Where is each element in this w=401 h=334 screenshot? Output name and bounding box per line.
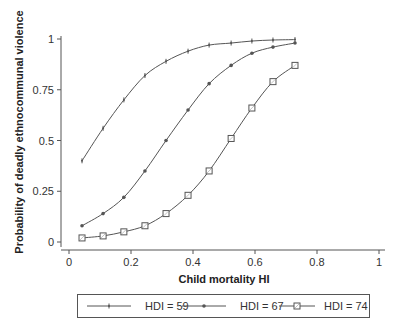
- chart-canvas: 00.250.50.751 00.20.40.60.81 Probability…: [0, 0, 401, 334]
- x-axis: 00.20.40.60.81: [61, 250, 385, 268]
- data-point: [185, 192, 191, 198]
- data-point: [272, 38, 274, 43]
- data-point: [142, 223, 148, 229]
- data-point: [271, 45, 275, 49]
- data-point: [80, 224, 84, 228]
- x-tick-label: 1: [376, 256, 382, 268]
- data-point: [100, 233, 106, 239]
- data-point: [230, 41, 232, 46]
- data-point: [186, 108, 190, 112]
- x-axis-title: Child mortality HI: [178, 273, 269, 285]
- y-tick-label: 1: [48, 33, 54, 45]
- y-axis: 00.250.50.751: [33, 33, 61, 248]
- data-point: [249, 105, 255, 111]
- x-tick-label: 0.8: [309, 256, 324, 268]
- data-point: [163, 211, 169, 217]
- y-tick-label: 0: [48, 236, 54, 248]
- data-point: [228, 135, 234, 141]
- chart: 00.250.50.751 00.20.40.60.81 Probability…: [0, 0, 401, 334]
- data-point: [165, 59, 167, 64]
- data-point: [270, 79, 276, 85]
- y-tick-label: 0.75: [33, 84, 54, 96]
- data-point: [101, 212, 105, 216]
- data-point: [207, 82, 211, 86]
- x-tick-label: 0.4: [185, 256, 200, 268]
- x-tick-label: 0: [66, 256, 72, 268]
- data-point: [164, 139, 168, 143]
- y-tick-label: 0.5: [39, 135, 54, 147]
- x-tick-label: 0.2: [123, 256, 138, 268]
- y-axis-title: Probability of deadly ethnocommunal viol…: [13, 10, 25, 253]
- x-tick-label: 0.6: [247, 256, 262, 268]
- y-tick-label: 0.25: [33, 185, 54, 197]
- legend-label: HDI = 67: [240, 300, 284, 312]
- legend-label: HDI = 74: [324, 300, 368, 312]
- data-point: [123, 97, 125, 102]
- data-point: [208, 43, 210, 48]
- series-hdi59: [81, 37, 296, 163]
- data-point: [229, 64, 233, 68]
- data-point: [79, 235, 85, 241]
- data-point: [187, 49, 189, 54]
- plot-area: [79, 37, 298, 241]
- data-point: [143, 169, 147, 173]
- data-point: [292, 62, 298, 68]
- data-point: [121, 229, 127, 235]
- legend: HDI = 59HDI = 67HDI = 74: [78, 295, 370, 318]
- data-point: [293, 41, 297, 45]
- data-point: [206, 168, 212, 174]
- data-point: [250, 51, 254, 55]
- series-hdi74: [79, 62, 298, 241]
- data-point: [122, 196, 126, 200]
- series-hdi67: [80, 41, 297, 227]
- data-point: [251, 39, 253, 44]
- data-point: [144, 73, 146, 78]
